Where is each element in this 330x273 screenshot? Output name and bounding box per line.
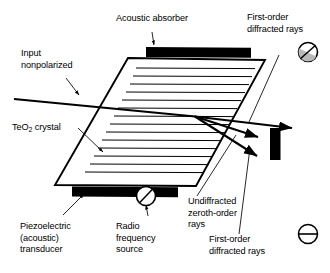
label-input-nonpolarized: Input nonpolarized	[21, 48, 105, 71]
aotf-diagram-figure: Acoustic absorber Input nonpolarized TeO…	[0, 0, 330, 273]
acoustic-absorber-bar	[146, 47, 251, 58]
beam-stop-block	[270, 128, 281, 160]
label-piezoelectric-transducer: Piezoelectric (acoustic) transducer	[20, 221, 112, 256]
label-first-order-diffracted-rays-bottom: First-order diffracted rays	[209, 234, 297, 257]
polarization-state-symbol-top	[299, 43, 318, 62]
teo2-formula-prefix: TeO	[12, 122, 29, 132]
label-first-order-diffracted-rays-top: First-order diffracted rays	[247, 12, 323, 35]
label-radio-frequency-source: Radio frequency source	[116, 221, 182, 256]
rf-source-symbol	[137, 187, 156, 206]
teo2-formula-suffix: crystal	[32, 122, 60, 132]
polarization-state-symbol-bottom	[299, 225, 318, 244]
piezoelectric-transducer-bar	[72, 187, 178, 198]
label-acoustic-absorber: Acoustic absorber	[88, 13, 216, 25]
label-undiffracted-zeroth-order-rays: Undiffracted zeroth-order rays	[188, 196, 272, 231]
label-teo2-crystal: TeO2 crystal	[12, 122, 94, 136]
